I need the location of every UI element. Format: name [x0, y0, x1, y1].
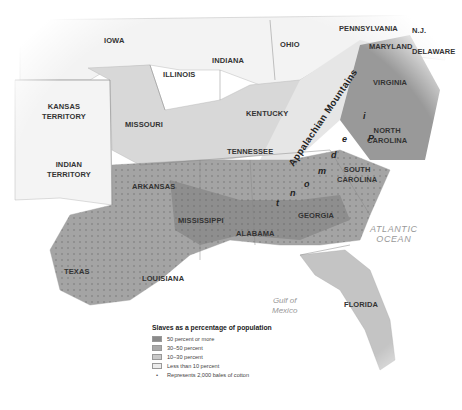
- label-georgia: GEORGIA: [298, 211, 334, 221]
- label-florida: FLORIDA: [344, 300, 378, 310]
- swatch-50-plus: [152, 336, 162, 342]
- label-atlantic-ocean: ATLANTIC OCEAN: [370, 224, 418, 244]
- label-missouri: MISSOURI: [125, 120, 163, 130]
- label-indiana: INDIANA: [212, 56, 244, 66]
- label-nj: N.J.: [412, 26, 426, 36]
- label-piedmont-m: m: [318, 166, 326, 176]
- legend-label: 50 percent or more: [167, 336, 214, 342]
- label-mississippi: MISSISSIPPI: [178, 216, 224, 226]
- label-tennessee: TENNESSEE: [227, 147, 273, 157]
- label-virginia: VIRGINIA: [373, 78, 407, 88]
- label-delaware: DELAWARE: [412, 47, 455, 57]
- label-maryland: MARYLAND: [369, 42, 412, 52]
- legend-item-30-50: 30–50 percent: [152, 343, 322, 352]
- legend-title: Slaves as a percentage of population: [152, 324, 322, 331]
- label-piedmont-o: o: [304, 179, 310, 189]
- swatch-10-30: [152, 354, 162, 360]
- legend-item-10-30: 10–30 percent: [152, 352, 322, 361]
- label-south-carolina: SOUTH CAROLINA: [337, 165, 377, 185]
- swatch-30-50: [152, 345, 162, 351]
- label-kansas-territory: KANSAS TERRITORY: [42, 102, 86, 122]
- label-louisiana: LOUISIANA: [142, 274, 184, 284]
- legend-label: Less than 10 percent: [167, 363, 219, 369]
- legend-label: 30–50 percent: [167, 345, 203, 351]
- label-iowa: IOWA: [104, 36, 124, 46]
- label-piedmont-n: n: [290, 188, 296, 198]
- legend-label: 10–30 percent: [167, 354, 203, 360]
- label-piedmont-t: t: [276, 198, 279, 208]
- label-ohio: OHIO: [280, 40, 300, 50]
- map-legend: Slaves as a percentage of population 50 …: [152, 324, 322, 379]
- legend-item-50-plus: 50 percent or more: [152, 334, 322, 343]
- legend-item-cotton: • Represents 2,000 bales of cotton: [152, 370, 322, 379]
- label-illinois: ILLINOIS: [163, 70, 195, 80]
- label-piedmont-d: d: [331, 150, 337, 160]
- legend-item-less-10: Less than 10 percent: [152, 361, 322, 370]
- legend-label: Represents 2,000 bales of cotton: [167, 372, 249, 378]
- slavery-cotton-map: IOWA ILLINOIS INDIANA OHIO PENNSYLVANIA …: [0, 0, 462, 410]
- label-texas: TEXAS: [64, 267, 90, 277]
- label-alabama: ALABAMA: [236, 229, 275, 239]
- label-pennsylvania: PENNSYLVANIA: [339, 24, 398, 34]
- label-piedmont-i: i: [363, 111, 366, 121]
- label-arkansas: ARKANSAS: [132, 182, 175, 192]
- label-kentucky: KENTUCKY: [246, 109, 288, 119]
- cotton-dot-icon: •: [152, 372, 162, 378]
- label-gulf-of-mexico: Gulf of Mexico: [272, 296, 297, 316]
- swatch-less-10: [152, 363, 162, 369]
- label-piedmont-p: P: [368, 133, 374, 143]
- label-piedmont-e: e: [342, 134, 347, 144]
- label-indian-territory: INDIAN TERRITORY: [47, 160, 91, 180]
